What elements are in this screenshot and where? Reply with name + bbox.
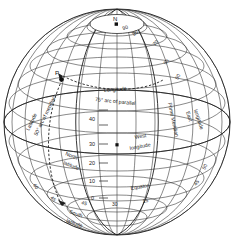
globe-svg: N 90 P Longitude 75° arc of parallel Lat… xyxy=(0,0,233,237)
equator-centre-marker xyxy=(115,143,118,146)
lat-tick-20: 20 xyxy=(89,160,95,166)
north-pole-marker xyxy=(115,22,118,25)
point-p-label: P xyxy=(55,69,59,76)
north-pole-label: N xyxy=(113,16,117,22)
point-p-marker xyxy=(59,77,64,82)
lon-tick-30: 30 xyxy=(112,201,118,207)
globe-diagram: N 90 P Longitude 75° arc of parallel Lat… xyxy=(0,0,233,237)
lat-tick-40: 40 xyxy=(89,116,95,122)
lat-tick-0: 0 xyxy=(91,195,94,201)
lat-tick-30: 30 xyxy=(89,141,95,147)
lat-tick-10: 10 xyxy=(89,178,95,184)
